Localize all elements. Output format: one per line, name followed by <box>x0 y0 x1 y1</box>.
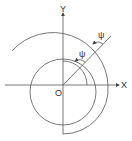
x-axis-label: X <box>121 80 127 90</box>
outer-psi-label: ψ <box>98 30 104 40</box>
outer-spiral-arc <box>12 33 108 134</box>
y-axis-label: Y <box>60 4 66 14</box>
inner-psi-label: ψ <box>79 49 85 59</box>
origin-label: O <box>55 88 62 98</box>
outer-psi-arc <box>93 42 103 44</box>
spiral-angle-diagram: Y X O ψ ψ <box>0 0 132 141</box>
radial-ray <box>63 36 111 85</box>
